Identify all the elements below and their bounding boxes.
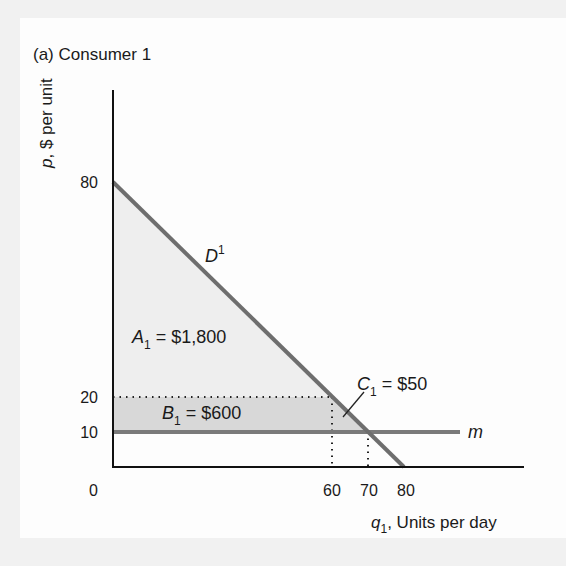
x-axis-label: q1, Units per day xyxy=(371,513,497,536)
consumer-surplus-chart: (a) Consumer 1 80 20 10 0 60 70 80 p, $ … xyxy=(0,0,566,566)
demand-label: D1 xyxy=(205,243,225,266)
area-c1-label: C1 = $50 xyxy=(357,374,427,399)
x-tick-80: 80 xyxy=(397,482,415,499)
panel-title: (a) Consumer 1 xyxy=(33,45,151,64)
y-tick-20: 20 xyxy=(80,389,98,406)
x-tick-70: 70 xyxy=(360,482,378,499)
x-tick-60: 60 xyxy=(323,482,341,499)
y-tick-10: 10 xyxy=(80,424,98,441)
y-axis-label: p, $ per unit xyxy=(37,78,56,169)
origin-label: 0 xyxy=(89,482,98,499)
y-tick-80: 80 xyxy=(80,174,98,191)
c1-leader-line xyxy=(343,392,364,417)
m-label: m xyxy=(468,422,483,442)
